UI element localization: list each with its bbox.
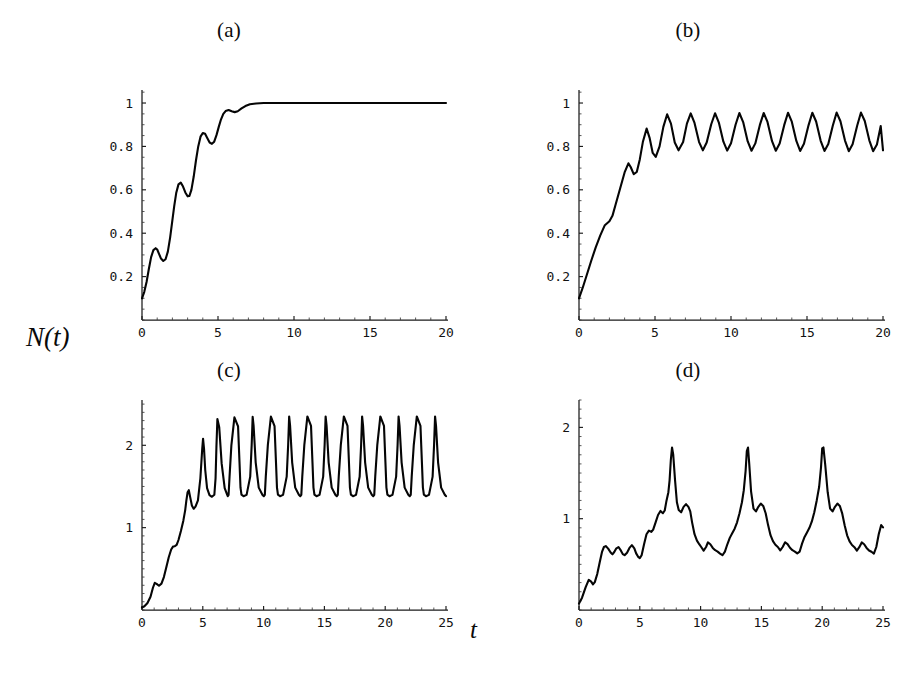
svg-text:5: 5 (199, 615, 207, 628)
svg-text:0: 0 (138, 615, 146, 628)
panel-b-plot: 051015200.20.40.60.81 (459, 18, 917, 338)
caption-partial (0, 662, 917, 676)
y-axis-title: N(t) (26, 322, 70, 353)
svg-text:15: 15 (362, 325, 378, 338)
svg-text:10: 10 (693, 615, 709, 628)
svg-text:10: 10 (256, 615, 272, 628)
panel-a: (a) 051015200.20.40.60.81 (0, 18, 458, 338)
svg-text:1: 1 (562, 511, 570, 526)
svg-text:5: 5 (214, 325, 222, 338)
svg-text:15: 15 (799, 325, 815, 338)
panel-c: (c) 051015202512 (0, 358, 458, 628)
svg-text:5: 5 (651, 325, 659, 338)
svg-text:10: 10 (286, 325, 302, 338)
svg-text:15: 15 (754, 615, 770, 628)
svg-text:0.6: 0.6 (110, 182, 133, 197)
panel-b: (b) 051015200.20.40.60.81 (459, 18, 917, 338)
svg-text:20: 20 (814, 615, 830, 628)
svg-text:20: 20 (875, 325, 891, 338)
svg-text:1: 1 (562, 96, 570, 111)
curve-d (579, 447, 883, 603)
svg-text:0.8: 0.8 (110, 139, 133, 154)
svg-text:25: 25 (438, 615, 454, 628)
svg-text:0.8: 0.8 (547, 139, 570, 154)
svg-text:10: 10 (723, 325, 739, 338)
svg-text:1: 1 (125, 96, 133, 111)
svg-text:1: 1 (125, 520, 133, 535)
curve-c (142, 416, 446, 607)
svg-text:2: 2 (125, 438, 133, 453)
svg-text:5: 5 (636, 615, 644, 628)
curve-b (579, 113, 883, 299)
svg-text:0: 0 (575, 325, 583, 338)
svg-text:0.4: 0.4 (110, 226, 134, 241)
panel-a-plot: 051015200.20.40.60.81 (0, 18, 458, 338)
svg-text:0.2: 0.2 (110, 269, 133, 284)
svg-text:2: 2 (562, 420, 570, 435)
svg-text:0.2: 0.2 (547, 269, 570, 284)
svg-text:0.4: 0.4 (547, 226, 571, 241)
panel-d-plot: 051015202512 (459, 358, 917, 628)
svg-text:0: 0 (138, 325, 146, 338)
svg-text:20: 20 (438, 325, 454, 338)
curve-a (142, 103, 446, 298)
x-axis-title: t (470, 616, 477, 644)
svg-text:15: 15 (317, 615, 333, 628)
svg-text:0.6: 0.6 (547, 182, 570, 197)
svg-text:25: 25 (875, 615, 891, 628)
svg-text:20: 20 (377, 615, 393, 628)
panel-c-plot: 051015202512 (0, 358, 458, 628)
figure-container: (a) 051015200.20.40.60.81 (b) 051015200.… (0, 0, 917, 676)
svg-text:0: 0 (575, 615, 583, 628)
panel-d: (d) 051015202512 (459, 358, 917, 628)
